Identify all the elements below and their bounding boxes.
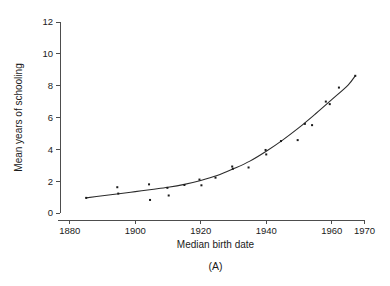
panel-label: (A) — [209, 260, 223, 272]
y-tick-label-12: 12 — [42, 16, 53, 27]
data-point — [231, 166, 233, 168]
axes — [58, 22, 365, 220]
data-point — [338, 87, 340, 89]
data-point — [85, 197, 87, 199]
data-point — [265, 149, 267, 151]
y-axis-title: Mean years of schooling — [13, 63, 24, 171]
data-point — [149, 199, 151, 201]
x-tick-label-1880: 1880 — [59, 225, 80, 236]
data-point — [198, 179, 200, 181]
data-point — [297, 139, 299, 141]
scatter-plot: 188019001920194019601970 024681012 Media… — [0, 0, 390, 286]
data-point — [166, 187, 168, 189]
data-point — [168, 194, 170, 196]
data-point — [148, 183, 150, 185]
data-point — [280, 140, 282, 142]
y-tick-label-0: 0 — [48, 207, 53, 218]
x-tick-label-1970: 1970 — [354, 225, 375, 236]
data-point — [265, 153, 267, 155]
y-tick-label-2: 2 — [48, 176, 53, 187]
data-point — [354, 75, 356, 77]
x-tick-label-1940: 1940 — [256, 225, 277, 236]
figure-panel-a: 188019001920194019601970 024681012 Media… — [0, 0, 390, 286]
data-point — [329, 103, 331, 105]
data-point — [304, 123, 306, 125]
tick-marks — [56, 22, 364, 224]
data-point — [311, 124, 313, 126]
x-tick-label-1960: 1960 — [321, 225, 342, 236]
x-tick-labels: 188019001920194019601970 — [59, 225, 375, 236]
data-point — [248, 166, 250, 168]
data-point — [117, 193, 119, 195]
data-point — [325, 101, 327, 103]
x-axis-title: Median birth date — [177, 239, 255, 250]
y-tick-label-8: 8 — [48, 80, 53, 91]
fitted-trend-curve — [86, 76, 355, 198]
data-points — [85, 75, 356, 201]
y-tick-labels: 024681012 — [42, 16, 53, 218]
data-point — [215, 177, 217, 179]
x-tick-label-1900: 1900 — [125, 225, 146, 236]
x-tick-label-1920: 1920 — [190, 225, 211, 236]
data-point — [232, 168, 234, 170]
data-point — [183, 184, 185, 186]
data-point — [116, 186, 118, 188]
data-point — [200, 184, 202, 186]
y-tick-label-6: 6 — [48, 112, 53, 123]
y-tick-label-10: 10 — [42, 48, 53, 59]
y-tick-label-4: 4 — [48, 144, 53, 155]
